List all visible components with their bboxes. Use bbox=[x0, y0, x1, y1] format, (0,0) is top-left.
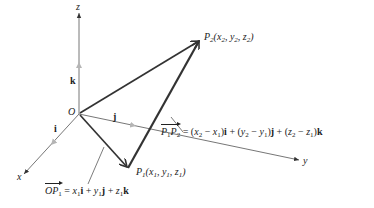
origin-label: O bbox=[68, 107, 75, 117]
p1-label: P1(x1, y1, z1) bbox=[136, 167, 186, 177]
z-axis-label: z bbox=[76, 2, 80, 12]
j-label: j bbox=[113, 112, 116, 122]
x-axis bbox=[24, 114, 79, 174]
op2-vector bbox=[80, 41, 199, 113]
i-label: i bbox=[54, 124, 57, 134]
op1-leader bbox=[88, 147, 104, 184]
p2-label: P2(x2, y2, z2) bbox=[204, 32, 254, 42]
k-label: k bbox=[70, 76, 76, 86]
p1p2-vector bbox=[128, 41, 199, 168]
vector-diagram bbox=[0, 0, 374, 208]
x-axis-label: x bbox=[17, 172, 21, 182]
y-axis-label: y bbox=[303, 156, 307, 166]
p1p2-equation: P1P2 = (x2 − x1)i + (y2 − y1)j + (z2 − z… bbox=[161, 127, 322, 137]
op1-equation: OP1 = x1i + y1j + z1k bbox=[45, 186, 129, 196]
